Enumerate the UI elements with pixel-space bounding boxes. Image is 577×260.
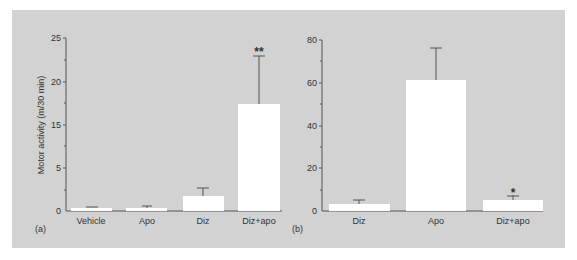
bar-diz [329, 204, 390, 211]
figure-svg: Motor activity (m/30 min) 25 20 15 5 0 [0, 0, 577, 260]
x-category-label: Diz+apo [242, 216, 275, 226]
x-category-label: Apo [139, 216, 155, 226]
y-tick-label: 80 [307, 35, 317, 45]
y-axis-label-a: Motor activity (m/30 min) [36, 76, 46, 175]
y-tick-label: 60 [307, 78, 317, 88]
y-tick-label: 0 [56, 206, 61, 216]
y-tick-label: 20 [307, 163, 317, 173]
y-tick-label: 25 [51, 33, 61, 43]
significance-marker-b: * [511, 186, 516, 200]
bar-diz-apo [483, 200, 543, 211]
x-category-label: Apo [428, 216, 444, 226]
y-tick-label: 20 [51, 77, 61, 87]
bar-apo [406, 80, 466, 211]
x-category-label: Diz [353, 216, 366, 226]
significance-marker-a: ** [254, 45, 264, 59]
panel-label-a: (a) [35, 224, 46, 234]
x-category-label: Vehicle [76, 216, 105, 226]
chart-b: 80 60 40 20 0 * Diz Apo Diz+apo (b) [292, 35, 543, 234]
chart-a: Motor activity (m/30 min) 25 20 15 5 0 [35, 33, 282, 234]
x-category-label: Diz [197, 216, 210, 226]
y-tick-label: 5 [56, 163, 61, 173]
bar-diz-apo [238, 104, 280, 211]
y-tick-label: 0 [312, 206, 317, 216]
bar-diz [183, 196, 224, 211]
y-tick-label: 15 [51, 120, 61, 130]
bar-vehicle [71, 208, 112, 211]
y-tick-label: 40 [307, 121, 317, 131]
panel-label-b: (b) [292, 224, 303, 234]
x-category-label: Diz+apo [496, 216, 529, 226]
bar-apo [126, 208, 167, 211]
